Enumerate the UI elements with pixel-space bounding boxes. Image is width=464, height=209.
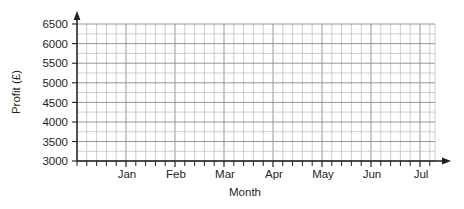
chart-canvas: 6500 6000 5500 5000 4500 4000 3500 3000 … (0, 0, 464, 209)
x-axis-title: Month (229, 186, 261, 198)
x-tick-label: Jul (414, 168, 429, 180)
y-tick-label: 5000 (42, 77, 68, 89)
y-tick-label: 3500 (42, 136, 68, 148)
blank-graph-grid: 6500 6000 5500 5000 4500 4000 3500 3000 … (0, 0, 464, 209)
y-tick-label: 3000 (42, 155, 68, 167)
x-tick-label: Mar (215, 168, 235, 180)
y-tick-label: 4000 (42, 116, 68, 128)
x-tick-label: Jun (363, 168, 382, 180)
y-tick-label: 6500 (42, 18, 68, 30)
x-tick-label: May (312, 168, 334, 180)
y-axis-title: Profit (£) (10, 70, 22, 114)
y-tick-label: 4500 (42, 97, 68, 109)
x-tick-label: Jan (118, 168, 137, 180)
y-tick-label: 5500 (42, 57, 68, 69)
x-tick-label: Feb (166, 168, 186, 180)
x-tick-label: Apr (265, 168, 283, 180)
y-tick-label: 6000 (42, 38, 68, 50)
